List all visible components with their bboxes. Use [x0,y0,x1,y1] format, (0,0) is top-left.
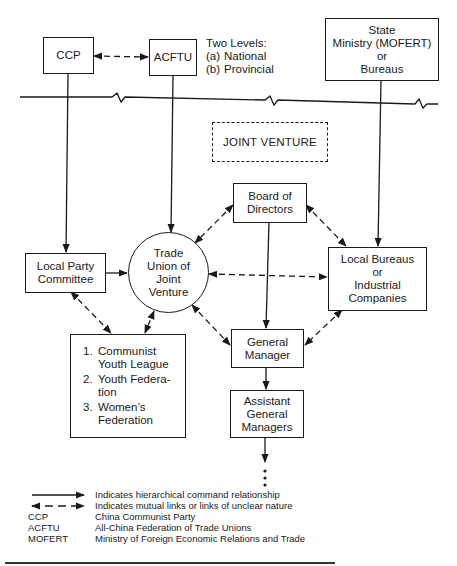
node-board-of-directors: Board of Directors [233,183,307,223]
node-general-manager: General Manager [231,329,304,368]
node-line: or [372,266,382,279]
node-line: Manager [245,349,290,362]
org-item: 2. Youth Federa-tion [83,373,170,399]
org-item: 3. Women’sFederation [83,401,153,427]
bottom-rule [5,562,335,564]
org-item-line: Youth League [98,358,169,370]
legend: Indicates hierarchical command relations… [28,489,305,544]
legend-abbr: MOFERT [28,533,95,544]
node-ccp-label: CCP [56,49,80,62]
node-local-party-committee: Local Party Committee [25,253,106,293]
continuation-dots [263,469,266,486]
node-line: Industrial [354,279,401,292]
node-joint-venture: JOINT VENTURE [212,122,328,162]
level-value: National [224,50,266,63]
node-line: General [247,408,288,421]
node-line: Assistant [244,395,291,408]
legend-row-abbr: ACFTUAll-China Federation of Trade Union… [28,522,305,533]
node-line: Local Party [37,260,95,273]
org-item-line: Federation [98,414,153,426]
org-item-number: 2. [83,373,98,399]
acftu-levels-note: Two Levels: (a)National (b)Provincial [206,37,274,76]
org-item-line: Communist [98,345,156,357]
legend-row-abbr: MOFERTMinistry of Foreign Economic Relat… [28,533,305,544]
node-line: Board of [248,190,291,203]
org-item-line: Women’s [98,401,146,413]
legend-row-abbr: CCPChina Communist Party [28,511,305,522]
node-local-bureaus: Local Bureaus or Industrial Companies [328,247,427,311]
node-line: Joint [156,273,180,286]
org-item-number: 3. [83,401,98,427]
legend-row-solid: Indicates hierarchical command relations… [28,489,305,500]
node-acftu: ACFTU [149,39,197,76]
node-line: Trade [154,247,184,260]
node-state-ministry: State Ministry (MOFERT) or Bureaus [325,18,439,81]
node-line: Venture [149,286,189,299]
legend-text: Ministry of Foreign Economic Relations a… [95,533,305,544]
organizational-boundary-line [20,93,438,108]
node-joint-venture-label: JOINT VENTURE [223,136,317,149]
node-trade-union: Trade Union of Joint Venture [128,232,209,313]
org-item-number: 1. [83,345,98,371]
legend-abbr: CCP [28,511,95,522]
legend-text: Indicates hierarchical command relations… [95,489,280,500]
level-key: (a) [206,50,224,63]
org-item-line: Youth Federa- [98,373,170,385]
node-line: Directors [247,203,293,216]
level-value: Provincial [224,63,274,76]
legend-row-dashed: Indicates mutual links or links of uncle… [28,500,305,511]
legend-text: All-China Federation of Trade Unions [95,522,251,533]
node-line: Bureaus [361,63,404,76]
org-item: 1. CommunistYouth League [83,345,169,371]
legend-abbr: ACFTU [28,522,95,533]
node-ccp: CCP [43,37,94,74]
node-line: Committee [38,273,94,286]
legend-text: China Communist Party [95,511,195,522]
node-line: Local Bureaus [341,253,415,266]
node-mass-organizations: 1. CommunistYouth League 2. Youth Federa… [70,334,186,438]
node-line: Ministry (MOFERT) [333,37,432,50]
level-key: (b) [206,63,224,76]
levels-title: Two Levels: [206,37,274,50]
node-line: Companies [348,292,406,305]
node-assistant-general-managers: Assistant General Managers [230,390,304,438]
node-acftu-label: ACFTU [154,51,192,64]
org-item-line: tion [98,386,117,398]
node-line: State [369,24,396,37]
node-line: Managers [241,421,292,434]
node-line: or [377,50,387,63]
legend-text: Indicates mutual links or links of uncle… [95,500,293,511]
node-line: General [247,336,288,349]
node-line: Union of [147,260,190,273]
